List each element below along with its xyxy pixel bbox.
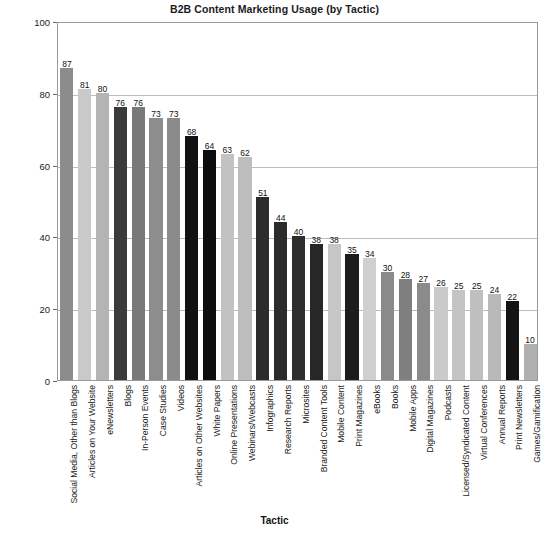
- bar[interactable]: [345, 254, 358, 380]
- bar-rect[interactable]: [328, 244, 341, 380]
- y-axis-tick-label: 20: [12, 304, 50, 315]
- x-axis-tick-label: Games/Gamification: [532, 385, 542, 463]
- bar[interactable]: [488, 294, 501, 380]
- bar-value-label: 44: [261, 213, 301, 223]
- bar[interactable]: [185, 136, 198, 380]
- x-axis-tick-label: Mobile Apps: [408, 385, 418, 432]
- bar-rect[interactable]: [256, 197, 269, 380]
- bar[interactable]: [524, 344, 537, 380]
- bar-rect[interactable]: [310, 244, 323, 380]
- plot-area: 8781807676737368646362514440383835343028…: [57, 22, 538, 381]
- bar[interactable]: [132, 107, 145, 380]
- gridline: [58, 167, 537, 168]
- bar-rect[interactable]: [524, 344, 537, 380]
- bar-value-label: 38: [314, 235, 354, 245]
- chart-title: B2B Content Marketing Usage (by Tactic): [0, 3, 549, 15]
- bar-rect[interactable]: [452, 290, 465, 380]
- bar-chart: B2B Content Marketing Usage (by Tactic) …: [0, 0, 549, 539]
- bar-value-label: 10: [510, 335, 549, 345]
- x-axis-tick-label: Microsites: [301, 385, 311, 424]
- bar-rect[interactable]: [149, 118, 162, 380]
- bar-rect[interactable]: [132, 107, 145, 380]
- bar[interactable]: [221, 154, 234, 380]
- bar-value-label: 80: [83, 84, 123, 94]
- bar-rect[interactable]: [167, 118, 180, 380]
- x-axis-title: Tactic: [0, 515, 549, 526]
- bar-value-label: 73: [154, 109, 194, 119]
- x-axis-tick-label: Annual Reports: [497, 385, 507, 444]
- y-axis-tick-label: 60: [12, 160, 50, 171]
- bar-value-label: 68: [172, 127, 212, 137]
- bar[interactable]: [167, 118, 180, 380]
- y-axis-tick-label: 80: [12, 88, 50, 99]
- bar-value-label: 51: [243, 188, 283, 198]
- bar[interactable]: [310, 244, 323, 380]
- x-axis-tick-label: Articles on Other Websites: [194, 385, 204, 487]
- x-axis-tick-label: Virtual Conferences: [479, 385, 489, 460]
- x-axis-tick-label: Blogs: [123, 385, 133, 407]
- x-axis-tick-label: White Papers: [212, 385, 222, 437]
- y-axis-tick-label: 40: [12, 232, 50, 243]
- x-axis-tick-label: In-Person Events: [140, 385, 150, 451]
- bar-rect[interactable]: [221, 154, 234, 380]
- bar-rect[interactable]: [96, 93, 109, 380]
- bar-rect[interactable]: [470, 290, 483, 380]
- bar[interactable]: [60, 68, 73, 380]
- bar-rect[interactable]: [203, 150, 216, 380]
- bar-rect[interactable]: [488, 294, 501, 380]
- bar[interactable]: [96, 93, 109, 380]
- bar[interactable]: [452, 290, 465, 380]
- bar-rect[interactable]: [381, 272, 394, 380]
- bar-value-label: 87: [47, 59, 87, 69]
- bar[interactable]: [434, 287, 447, 380]
- bar-rect[interactable]: [185, 136, 198, 380]
- gridline: [58, 95, 537, 96]
- bar[interactable]: [292, 236, 305, 380]
- y-axis-tick-mark: [53, 381, 57, 382]
- x-axis-tick-label: eBooks: [372, 385, 382, 414]
- bar[interactable]: [78, 89, 91, 380]
- bar[interactable]: [256, 197, 269, 380]
- bar-value-label: 22: [492, 292, 532, 302]
- x-axis-tick-label: Articles on Your Website: [87, 385, 97, 478]
- bar[interactable]: [381, 272, 394, 380]
- x-axis-tick-label: Digital Magazines: [425, 385, 435, 453]
- x-axis-tick-label: Licensed/Syndicated Content: [461, 385, 471, 497]
- bar-value-label: 34: [350, 249, 390, 259]
- bar-rect[interactable]: [363, 258, 376, 380]
- bar-rect[interactable]: [78, 89, 91, 380]
- bar-rect[interactable]: [417, 283, 430, 380]
- bar-value-label: 62: [225, 148, 265, 158]
- bar[interactable]: [399, 279, 412, 380]
- y-axis-tick-label: 100: [12, 17, 50, 28]
- bar[interactable]: [328, 244, 341, 380]
- bar[interactable]: [470, 290, 483, 380]
- bar-rect[interactable]: [274, 222, 287, 380]
- x-axis-tick-label: Print Magazines: [354, 385, 364, 447]
- x-axis-tick-label: Mobile Content: [336, 385, 346, 443]
- bar[interactable]: [203, 150, 216, 380]
- x-axis-tick-label: Books: [390, 385, 400, 409]
- bar-rect[interactable]: [434, 287, 447, 380]
- x-axis-tick-label: Podcasts: [443, 385, 453, 420]
- x-axis-tick-label: Social Media, Other than Blogs: [69, 385, 79, 503]
- y-axis-tick-label: 0: [12, 376, 50, 387]
- x-axis-tick-label: Videos: [176, 385, 186, 411]
- bar[interactable]: [363, 258, 376, 380]
- bar-rect[interactable]: [345, 254, 358, 380]
- bar[interactable]: [417, 283, 430, 380]
- bar-value-label: 76: [118, 98, 158, 108]
- bar-rect[interactable]: [399, 279, 412, 380]
- bar[interactable]: [274, 222, 287, 380]
- bar-rect[interactable]: [60, 68, 73, 380]
- x-axis-tick-label: Case Studies: [158, 385, 168, 436]
- x-axis-tick-label: eNewsletters: [105, 385, 115, 435]
- bar-rect[interactable]: [114, 107, 127, 380]
- bar[interactable]: [149, 118, 162, 380]
- bar[interactable]: [114, 107, 127, 380]
- x-axis-tick-label: Branded Content Tools: [319, 385, 329, 472]
- x-axis-tick-label: Online Presentations: [229, 385, 239, 465]
- x-axis-tick-label: Print Newsletters: [514, 385, 524, 450]
- x-axis-tick-label: Infographics: [265, 385, 275, 432]
- bar-rect[interactable]: [292, 236, 305, 380]
